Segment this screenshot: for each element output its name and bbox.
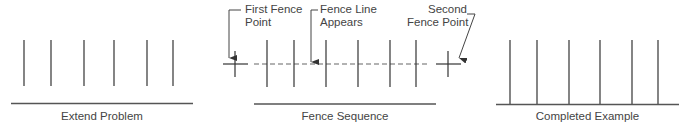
fence-line-appears-label: Fence Line Appears: [320, 3, 377, 29]
extend-problem-caption: Extend Problem: [11, 110, 193, 122]
first-fence-point-line1: First Fence: [245, 3, 303, 16]
second-fence-point-line1: Second: [407, 3, 467, 16]
fence-sequence-panel: [223, 40, 461, 104]
completed-example-caption: Completed Example: [496, 110, 679, 122]
completed-example-panel: [496, 40, 679, 105]
first-fence-point-line2: Point: [245, 16, 303, 29]
second-fence-point-line2: Fence Point: [407, 16, 467, 29]
first-fence-point-label: First Fence Point: [245, 3, 303, 29]
fence-sequence-caption: Fence Sequence: [254, 110, 436, 122]
extend-problem-panel: [11, 40, 193, 104]
fence-line-appears-line2: Appears: [320, 16, 377, 29]
fence-line-appears-line1: Fence Line: [320, 3, 377, 16]
second-fence-point-label: Second Fence Point: [407, 3, 467, 29]
